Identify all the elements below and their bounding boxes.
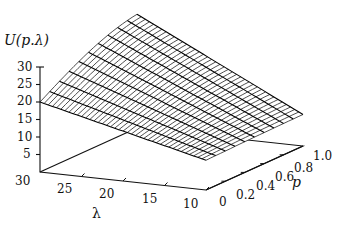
z-axis-title: U(p.λ) [4, 32, 49, 48]
z-tick-label: 20 [17, 95, 32, 107]
z-tick-label: 15 [17, 113, 32, 125]
surface-plot: U(p.λ) 30 25 20 15 10 5 30 25 20 15 10 λ… [0, 0, 341, 227]
z-tick-label: 25 [17, 78, 32, 90]
y-tick-label: 0.8 [294, 162, 313, 174]
back-floor-edge [40, 128, 137, 172]
z-tick-label: 5 [23, 148, 31, 160]
x-axis-title: λ [92, 205, 101, 221]
z-tick-label: 30 [17, 61, 32, 73]
x-tick-label: 25 [57, 183, 72, 195]
plot-canvas [0, 0, 341, 227]
x-tick-label: 30 [15, 175, 30, 187]
y-tick-label: 1.0 [313, 150, 332, 162]
x-tick-label: 20 [99, 188, 114, 200]
x-tick-label: 15 [142, 193, 157, 205]
y-axis-title: p [292, 174, 301, 190]
y-tick-label: 0.2 [236, 189, 255, 201]
y-tick-label: 0.4 [256, 180, 275, 192]
x-tick-label: 10 [183, 198, 198, 210]
y-tick-label: 0 [219, 196, 227, 208]
z-tick-label: 10 [17, 131, 32, 143]
